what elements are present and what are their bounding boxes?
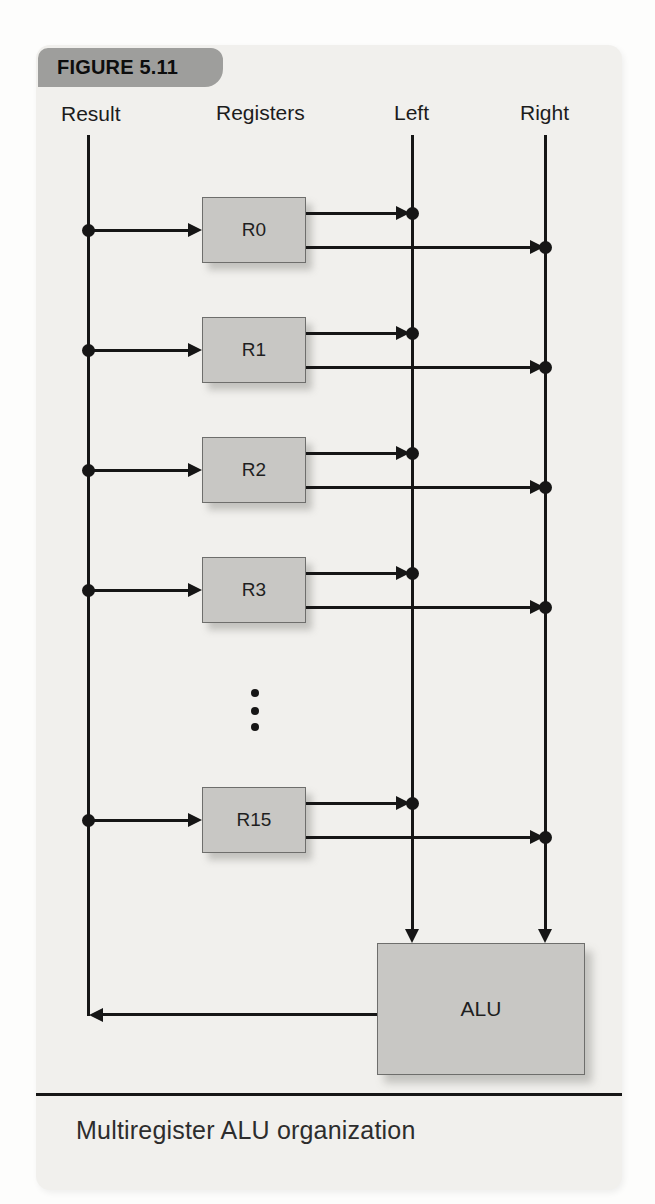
left-bus-junction-dot [406,207,419,220]
register-box-r2: R2 [202,437,306,503]
right-bus-junction-dot [539,601,552,614]
result-to-register-line [88,819,190,822]
register-label: R0 [242,219,266,241]
right-bus-arrowhead-icon [538,929,552,943]
register-label: R1 [242,339,266,361]
left-bus-junction-dot [406,447,419,460]
register-input-arrowhead-icon [188,583,202,597]
register-to-left-bus-line [306,332,400,335]
result-bus-line [87,135,90,1016]
alu-box: ALU [377,943,585,1075]
alu-label: ALU [461,997,502,1021]
register-to-left-bus-line [306,452,400,455]
left-bus-junction-dot [406,797,419,810]
figure-badge-label: FIGURE 5.11 [57,56,178,78]
right-bus-line [544,135,547,931]
register-label: R2 [242,459,266,481]
column-label-right: Right [520,101,569,125]
register-to-left-bus-line [306,212,400,215]
register-label: R3 [242,579,266,601]
register-to-left-bus-line [306,802,400,805]
ellipsis-dot [251,723,259,731]
column-label-left: Left [394,101,429,125]
figure-caption: Multiregister ALU organization [76,1116,416,1145]
register-to-right-bus-line [306,246,534,249]
left-bus-arrowhead-icon [405,929,419,943]
right-bus-junction-dot [539,831,552,844]
register-to-right-bus-line [306,486,534,489]
register-input-arrowhead-icon [188,223,202,237]
right-bus-junction-dot [539,241,552,254]
register-box-r3: R3 [202,557,306,623]
register-input-arrowhead-icon [188,813,202,827]
figure-badge: FIGURE 5.11 [38,48,223,87]
right-bus-junction-dot [539,481,552,494]
register-to-right-bus-line [306,836,534,839]
left-bus-junction-dot [406,327,419,340]
result-to-register-line [88,469,190,472]
register-box-r15: R15 [202,787,306,853]
ellipsis-dot [251,689,259,697]
register-label: R15 [237,809,272,831]
result-to-register-line [88,589,190,592]
alu-result-feedback-line [99,1013,377,1016]
register-to-left-bus-line [306,572,400,575]
register-to-right-bus-line [306,366,534,369]
result-to-register-line [88,229,190,232]
figure-5-11-page: FIGURE 5.11 Result Registers Left Right … [0,0,655,1204]
result-feedback-arrowhead-icon [89,1008,103,1022]
result-to-register-line [88,349,190,352]
register-input-arrowhead-icon [188,343,202,357]
caption-divider [36,1093,622,1096]
left-bus-junction-dot [406,567,419,580]
register-to-right-bus-line [306,606,534,609]
ellipsis-dot [251,707,259,715]
column-label-result: Result [61,102,121,126]
register-box-r1: R1 [202,317,306,383]
column-label-registers: Registers [216,101,305,125]
right-bus-junction-dot [539,361,552,374]
register-box-r0: R0 [202,197,306,263]
left-bus-line [411,135,414,931]
register-input-arrowhead-icon [188,463,202,477]
